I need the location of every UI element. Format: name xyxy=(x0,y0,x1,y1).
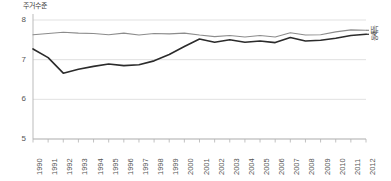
x-axis-tick-label: 1999 xyxy=(172,158,180,175)
x-axis-tick-label: 1991 xyxy=(51,158,59,175)
x-axis-tick-label: 2007 xyxy=(293,158,301,175)
x-axis-tick-label: 2000 xyxy=(187,158,195,175)
x-axis-tick-label: 2008 xyxy=(308,158,316,175)
x-axis-tick-label: 1997 xyxy=(142,158,150,175)
plot-area xyxy=(0,0,391,181)
x-axis-tick-label: 1993 xyxy=(81,158,89,175)
x-axis-tick-label: 2006 xyxy=(278,158,286,175)
x-axis-tick-label: 1994 xyxy=(97,158,105,175)
gridlines xyxy=(33,20,366,139)
x-axis-tick-label: 1990 xyxy=(36,158,44,175)
x-axis-tick-label: 1996 xyxy=(127,158,135,175)
x-axis-tick-label: 2001 xyxy=(203,158,211,175)
series-line xyxy=(33,30,366,37)
y-axis-tick-label: 5 xyxy=(8,135,26,143)
y-axis-tick-label: 6 xyxy=(8,95,26,103)
x-axis-tick-label: 2003 xyxy=(233,158,241,175)
x-axis-tick-label: 2005 xyxy=(263,158,271,175)
x-axis-tick-label: 2009 xyxy=(324,158,332,175)
x-axis-tick-label: 2002 xyxy=(218,158,226,175)
chart-container: 주거수준 5678 199019911992199319941995199619… xyxy=(0,0,391,181)
y-axis-tick-label: 8 xyxy=(8,16,26,24)
x-axis-tick-label: 2012 xyxy=(369,158,377,175)
x-axis-tick-label: 1995 xyxy=(112,158,120,175)
x-axis-tick-label: 1998 xyxy=(157,158,165,175)
legend-label-east: 동독 xyxy=(371,29,378,41)
series-lines xyxy=(33,30,366,73)
legend-swatches xyxy=(366,30,369,34)
x-axis-tick-label: 1992 xyxy=(66,158,74,175)
x-axis-tick-label: 2011 xyxy=(354,159,362,175)
y-axis-tick-label: 7 xyxy=(8,56,26,64)
x-axis-ticks xyxy=(33,139,366,143)
x-axis-tick-label: 2010 xyxy=(339,158,347,175)
series-line xyxy=(33,34,366,73)
x-axis-tick-label: 2004 xyxy=(248,158,256,175)
